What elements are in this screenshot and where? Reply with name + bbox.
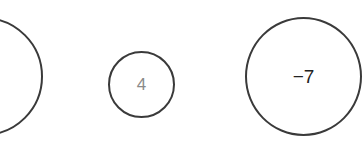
- node-label-middle: 4: [137, 75, 146, 95]
- circle-node-right: −7: [245, 17, 362, 136]
- circle-node-left: [0, 17, 43, 136]
- node-label-right: −7: [293, 66, 315, 88]
- circle-node-middle: 4: [108, 51, 175, 118]
